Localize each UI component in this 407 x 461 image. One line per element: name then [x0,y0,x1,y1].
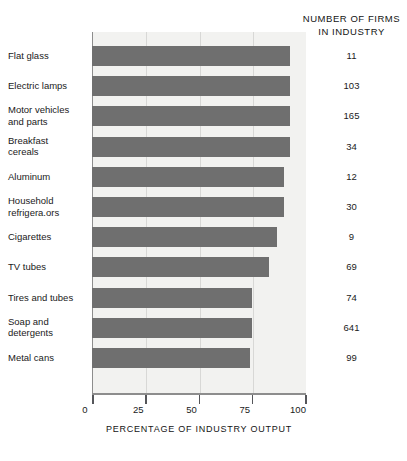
category-label: TV tubes [8,261,88,273]
category-label: Metal cans [8,352,88,364]
category-label-line1: Soap and [8,316,88,328]
bar [92,348,250,368]
firms-header-line1: NUMBER OF FIRMS [296,12,407,25]
category-label-line1: Motor vehicles [8,104,88,116]
category-label-line1: Metal cans [8,352,88,364]
firms-count: 34 [296,141,407,152]
category-label: Electric lamps [8,80,88,92]
x-tick-label: 50 [186,404,197,415]
table-row: Soap anddetergents641 [0,304,407,334]
firms-count: 30 [296,201,407,212]
x-tick-75 [252,395,254,404]
category-label-line1: Household [8,195,88,207]
x-axis-title: PERCENTAGE OF INDUSTRY OUTPUT [92,424,306,434]
firms-count: 74 [296,292,407,303]
table-row: Metal cans99 [0,334,407,364]
x-tick-50 [199,395,201,404]
bar-chart-figure: NUMBER OF FIRMS IN INDUSTRY Flat glass11… [0,0,407,461]
table-row: Breakfastcereals34 [0,123,407,153]
firms-count: 9 [296,231,407,242]
x-tick-25 [145,395,147,404]
firms-count: 69 [296,261,407,272]
category-label: Aluminum [8,171,88,183]
category-label: Flat glass [8,50,88,62]
x-tick-label: 75 [239,404,250,415]
category-label-line1: Aluminum [8,171,88,183]
x-tick-100 [305,395,307,404]
category-label: Tires and tubes [8,292,88,304]
x-tick-label: 25 [133,404,144,415]
x-tick-label: 0 [82,404,87,415]
category-label-line1: Electric lamps [8,80,88,92]
table-row: TV tubes69 [0,243,407,273]
table-row: Aluminum12 [0,153,407,183]
table-row: Householdrefrigera.ors30 [0,183,407,213]
category-label-line1: Cigarettes [8,231,88,243]
category-label-line1: Breakfast [8,135,88,147]
firms-count: 12 [296,171,407,182]
firms-count: 99 [296,352,407,363]
x-tick-label: 100 [290,404,306,415]
category-label-line1: Tires and tubes [8,292,88,304]
firms-count: 11 [296,50,407,61]
table-row: Motor vehiclesand parts165 [0,92,407,122]
x-tick-0 [92,395,94,404]
category-label: Cigarettes [8,231,88,243]
table-row: Cigarettes9 [0,213,407,243]
firms-count: 103 [296,80,407,91]
table-row: Electric lamps103 [0,62,407,92]
firms-count: 165 [296,110,407,121]
category-label-line1: TV tubes [8,261,88,273]
firms-count: 641 [296,322,407,333]
category-label-line1: Flat glass [8,50,88,62]
table-row: Tires and tubes74 [0,274,407,304]
table-row: Flat glass11 [0,32,407,62]
